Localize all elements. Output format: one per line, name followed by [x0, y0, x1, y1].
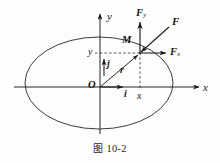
point-M-marker [139, 52, 141, 54]
force-Fx-label: Fx [170, 47, 180, 58]
force-Fx-subscript: x [177, 50, 180, 57]
force-F-arrow [141, 27, 169, 52]
x-axis-label: x [203, 82, 208, 93]
force-Fy-subscript: y [143, 11, 146, 18]
caption-prefix: 图 [93, 143, 103, 154]
position-vector-r-arrow [100, 55, 138, 87]
caption-number: 10-2 [106, 143, 126, 154]
point-x-coordinate-label: x [137, 91, 141, 101]
force-F-label: F [172, 16, 179, 27]
figure-container: y x O y x M i j r F Fx Fy 图 10-2 [0, 0, 220, 163]
point-M-label: M [122, 35, 131, 46]
force-Fy-label: Fy [136, 8, 146, 19]
unit-vector-i-label: i [124, 89, 127, 99]
point-y-coordinate-label: y [88, 47, 92, 57]
force-Fx-base: F [170, 46, 177, 57]
body-ellipse [25, 37, 173, 129]
figure-caption: 图 10-2 [0, 140, 220, 155]
position-vector-r-label: r [120, 65, 124, 75]
unit-vector-j-label: j [107, 59, 110, 69]
y-axis-label: y [107, 11, 112, 22]
force-Fy-base: F [136, 7, 143, 18]
origin-label: O [88, 80, 96, 91]
vector-diagram [0, 0, 220, 163]
